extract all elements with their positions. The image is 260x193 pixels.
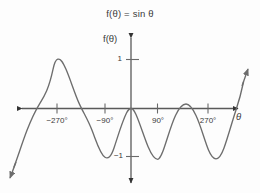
x-tick-label-270: 270° <box>200 117 217 125</box>
sine-curve <box>14 59 244 167</box>
sine-function-graph-figure: f(θ) = sin θ f(θ) θ −270° −90° 90° 270° … <box>0 0 260 193</box>
curve-arrow-lower-left <box>10 162 16 178</box>
x-tick-label--270: −270° <box>46 117 67 125</box>
x-tick-label--90: −90° <box>97 117 114 125</box>
y-axis-label: f(θ) <box>103 34 117 44</box>
x-tick-label-90: 90° <box>152 117 164 125</box>
curve-arrow-upper-right <box>242 69 248 86</box>
y-tick-label--1: −1 <box>114 152 123 160</box>
y-tick-label-1: 1 <box>118 55 122 63</box>
plot-area <box>0 0 260 193</box>
x-axis-label: θ <box>236 112 241 122</box>
chart-title: f(θ) = sin θ <box>0 9 260 19</box>
